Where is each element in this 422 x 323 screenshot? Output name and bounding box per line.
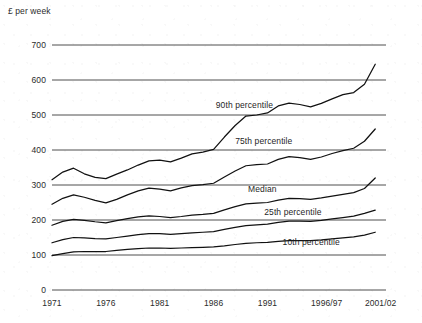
plot-area — [0, 0, 422, 323]
y-tick-label-700: 700 — [12, 40, 46, 50]
y-tick-label-500: 500 — [12, 110, 46, 120]
series-label-75th-percentile: 75th percentile — [235, 136, 292, 146]
series-line-75th-percentile — [52, 129, 375, 204]
series-label-median: Median — [248, 184, 276, 194]
x-tick-label-1996-97: 1996/97 — [311, 298, 342, 308]
y-tick-label-400: 400 — [12, 145, 46, 155]
x-tick-label-1986: 1986 — [204, 298, 223, 308]
series-label-25th-percentile: 25th percentile — [264, 207, 321, 217]
y-tick-label-300: 300 — [12, 180, 46, 190]
x-tick-label-1981: 1981 — [150, 298, 169, 308]
earnings-percentiles-line-chart: £ per week 0100200300400500600700 197119… — [0, 0, 422, 323]
y-tick-label-100: 100 — [12, 250, 46, 260]
x-tick-label-1991: 1991 — [258, 298, 277, 308]
y-tick-label-200: 200 — [12, 215, 46, 225]
series-label-90th-percentile: 90th percentile — [216, 100, 273, 110]
series-line-90th-percentile — [52, 64, 375, 180]
x-tick-label-1971: 1971 — [42, 298, 61, 308]
x-tick-label-2001-02: 2001/02 — [365, 298, 396, 308]
y-tick-label-600: 600 — [12, 75, 46, 85]
x-tick-label-1976: 1976 — [96, 298, 115, 308]
y-tick-label-0: 0 — [12, 285, 46, 295]
series-label-10th-percentile: 10th percentile — [283, 237, 340, 247]
